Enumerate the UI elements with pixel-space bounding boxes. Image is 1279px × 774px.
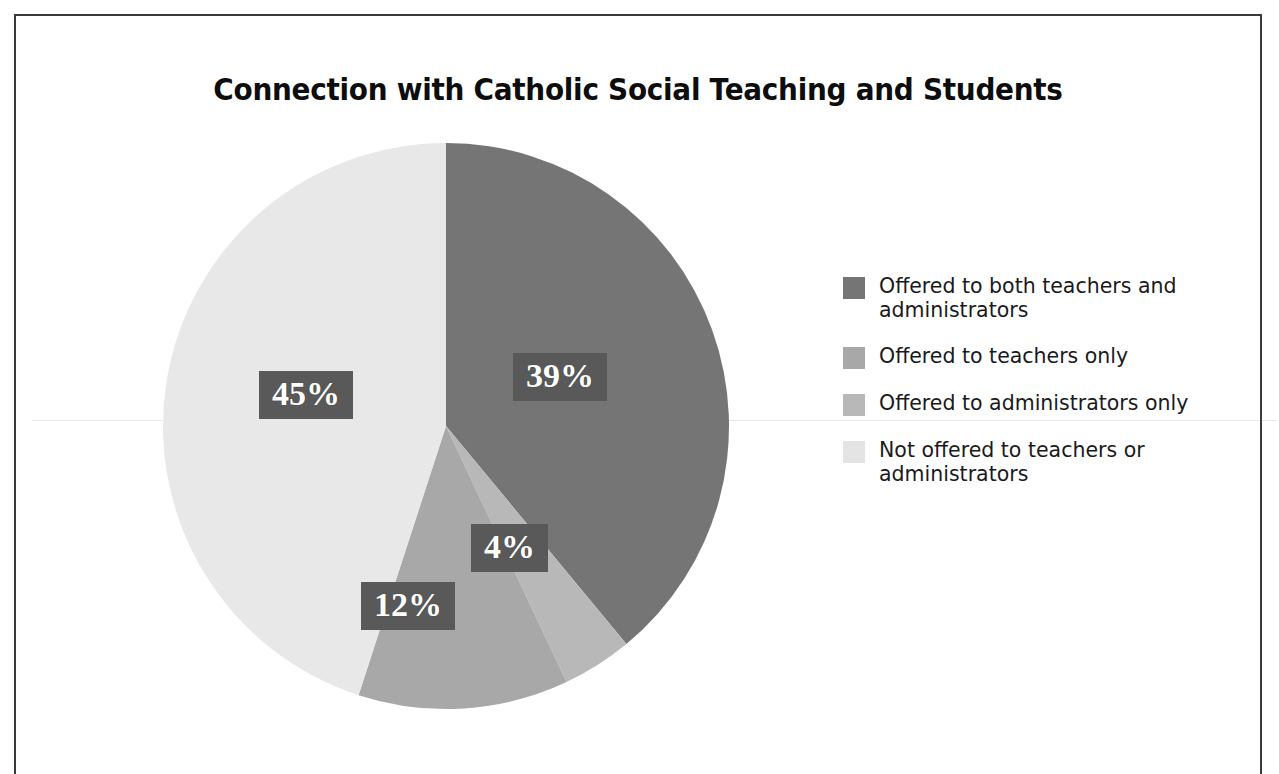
legend-swatch-icon <box>843 277 865 299</box>
slice-value-label-teachers-only: 12% <box>361 582 455 630</box>
document-page-frame: Connection with Catholic Social Teaching… <box>14 14 1262 774</box>
legend-item-label: Offered to teachers only <box>879 344 1128 368</box>
legend-item-not-offered: Not offered to teachers or administrator… <box>843 438 1243 486</box>
legend-item-label: Offered to both teachers and administrat… <box>879 274 1199 322</box>
legend-swatch-icon <box>843 441 865 463</box>
slice-value-label-not-offered: 45% <box>259 371 353 419</box>
chart-title: Connection with Catholic Social Teaching… <box>60 72 1217 107</box>
legend-swatch-icon <box>843 347 865 369</box>
slice-value-label-administrators-only: 4% <box>471 524 548 572</box>
chart-legend: Offered to both teachers and administrat… <box>843 274 1243 508</box>
legend-item-label: Not offered to teachers or administrator… <box>879 438 1199 486</box>
legend-item-label: Offered to administrators only <box>879 391 1188 415</box>
slice-value-label-offered-both: 39% <box>513 353 607 401</box>
legend-item-offered-both: Offered to both teachers and administrat… <box>843 274 1243 322</box>
legend-item-teachers-only: Offered to teachers only <box>843 344 1243 369</box>
legend-swatch-icon <box>843 394 865 416</box>
legend-item-administrators-only: Offered to administrators only <box>843 391 1243 416</box>
